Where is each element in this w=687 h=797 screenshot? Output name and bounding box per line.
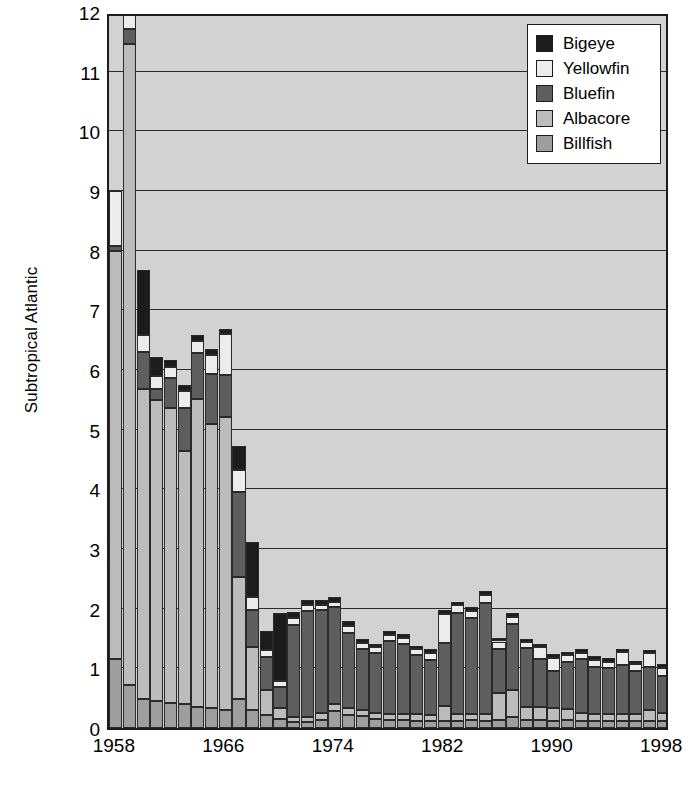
bar-segment-yellowfin: [397, 638, 410, 644]
bar-segment-yellowfin: [547, 658, 560, 671]
bar: [315, 600, 328, 728]
bar-segment-bluefin: [315, 610, 328, 713]
legend-swatch-icon: [536, 135, 553, 152]
bar-segment-albacore: [424, 715, 437, 721]
bar-segment-yellowfin: [616, 652, 629, 665]
bar-segment-billfish: [246, 710, 259, 728]
bar-segment-bigeye: [356, 639, 369, 643]
bar-segment-billfish: [492, 720, 505, 728]
bar-segment-albacore: [561, 709, 574, 720]
bar-segment-bluefin: [424, 660, 437, 715]
bar-segment-bigeye: [520, 639, 533, 643]
bar-segment-albacore: [301, 717, 314, 722]
bar-segment-billfish: [657, 721, 668, 728]
bar-segment-bluefin: [273, 687, 286, 708]
bar-segment-bluefin: [451, 613, 464, 713]
legend-swatch-icon: [536, 60, 553, 77]
legend-item-albacore: Albacore: [536, 106, 653, 131]
bar-segment-bluefin: [438, 643, 451, 706]
x-tick-label: 1998: [621, 736, 687, 755]
legend-item-bigeye: Bigeye: [536, 31, 653, 56]
bar-segment-albacore: [150, 400, 163, 701]
bar-segment-yellowfin: [273, 681, 286, 687]
y-tick-label: 8: [64, 243, 100, 262]
y-axis-tick-labels: 0123456789101112: [60, 0, 100, 797]
bar-segment-bigeye: [410, 646, 423, 650]
bar-segment-bigeye: [205, 349, 218, 355]
bar-segment-bluefin: [397, 644, 410, 714]
bar-segment-bigeye: [438, 610, 451, 614]
bar-segment-albacore: [287, 717, 300, 722]
bar-segment-bluefin: [150, 389, 163, 400]
bar: [328, 597, 341, 728]
bar-segment-bluefin: [219, 375, 232, 417]
bar-segment-albacore: [246, 647, 259, 710]
legend-label: Yellowfin: [563, 59, 629, 79]
bar-segment-bluefin: [465, 618, 478, 713]
bar-segment-albacore: [356, 710, 369, 716]
y-tick-label: 7: [64, 302, 100, 321]
bar-segment-billfish: [520, 720, 533, 728]
bar: [561, 652, 574, 728]
bar-segment-bigeye: [451, 602, 464, 606]
bar-segment-bluefin: [547, 671, 560, 708]
bar-segment-albacore: [410, 714, 423, 721]
bar-segment-albacore: [137, 389, 150, 699]
bar-segment-yellowfin: [164, 367, 177, 378]
bar-segment-bigeye: [219, 329, 232, 334]
bar-segment-billfish: [561, 720, 574, 728]
bar-segment-yellowfin: [205, 355, 218, 374]
bar-segment-yellowfin: [588, 660, 601, 667]
bar-segment-billfish: [506, 717, 519, 728]
bar-segment-albacore: [629, 714, 642, 721]
bar: [219, 329, 232, 728]
bar-segment-bigeye: [506, 613, 519, 617]
bar-segment-albacore: [465, 714, 478, 720]
bar-segment-bluefin: [657, 676, 668, 713]
bar-segment-yellowfin: [479, 595, 492, 603]
bar: [465, 607, 478, 728]
bar: [150, 357, 163, 728]
x-tick-label: 1990: [512, 736, 592, 755]
bar-segment-albacore: [492, 693, 505, 719]
bar-segment-bluefin: [506, 624, 519, 690]
x-tick-label: 1966: [183, 736, 263, 755]
bar-segment-billfish: [383, 720, 396, 728]
bar-segment-yellowfin: [602, 662, 615, 668]
bar-segment-billfish: [438, 721, 451, 728]
bar-segment-yellowfin: [328, 602, 341, 608]
bar: [397, 634, 410, 728]
bar-segment-bigeye: [191, 335, 204, 341]
bar-segment-albacore: [315, 713, 328, 720]
bar-segment-bluefin: [109, 246, 122, 251]
bar-segment-bluefin: [383, 641, 396, 714]
bar-segment-bluefin: [588, 667, 601, 714]
bar-segment-yellowfin: [137, 335, 150, 352]
bar-segment-yellowfin: [629, 664, 642, 671]
bar-segment-bigeye: [547, 654, 560, 658]
bar-segment-albacore: [616, 714, 629, 721]
bar-segment-albacore: [219, 417, 232, 709]
bar-segment-billfish: [123, 685, 136, 728]
bar-segment-bigeye: [315, 600, 328, 605]
y-tick-label: 6: [64, 362, 100, 381]
bar-segment-billfish: [397, 720, 410, 728]
bar-segment-billfish: [150, 701, 163, 728]
legend-item-yellowfin: Yellowfin: [536, 56, 653, 81]
bar: [520, 639, 533, 729]
bar-segment-bigeye: [137, 270, 150, 336]
bar-segment-billfish: [629, 721, 642, 728]
bar-segment-albacore: [164, 408, 177, 703]
bar: [205, 349, 218, 728]
bar: [438, 610, 451, 728]
bar-segment-yellowfin: [232, 470, 245, 493]
bar-segment-albacore: [342, 708, 355, 715]
bar: [383, 631, 396, 728]
bar-segment-yellowfin: [643, 653, 656, 666]
bar: [533, 644, 546, 728]
bar-segment-yellowfin: [424, 653, 437, 660]
bar-segment-billfish: [643, 721, 656, 728]
bar-segment-billfish: [602, 721, 615, 728]
bar-segment-albacore: [506, 690, 519, 717]
